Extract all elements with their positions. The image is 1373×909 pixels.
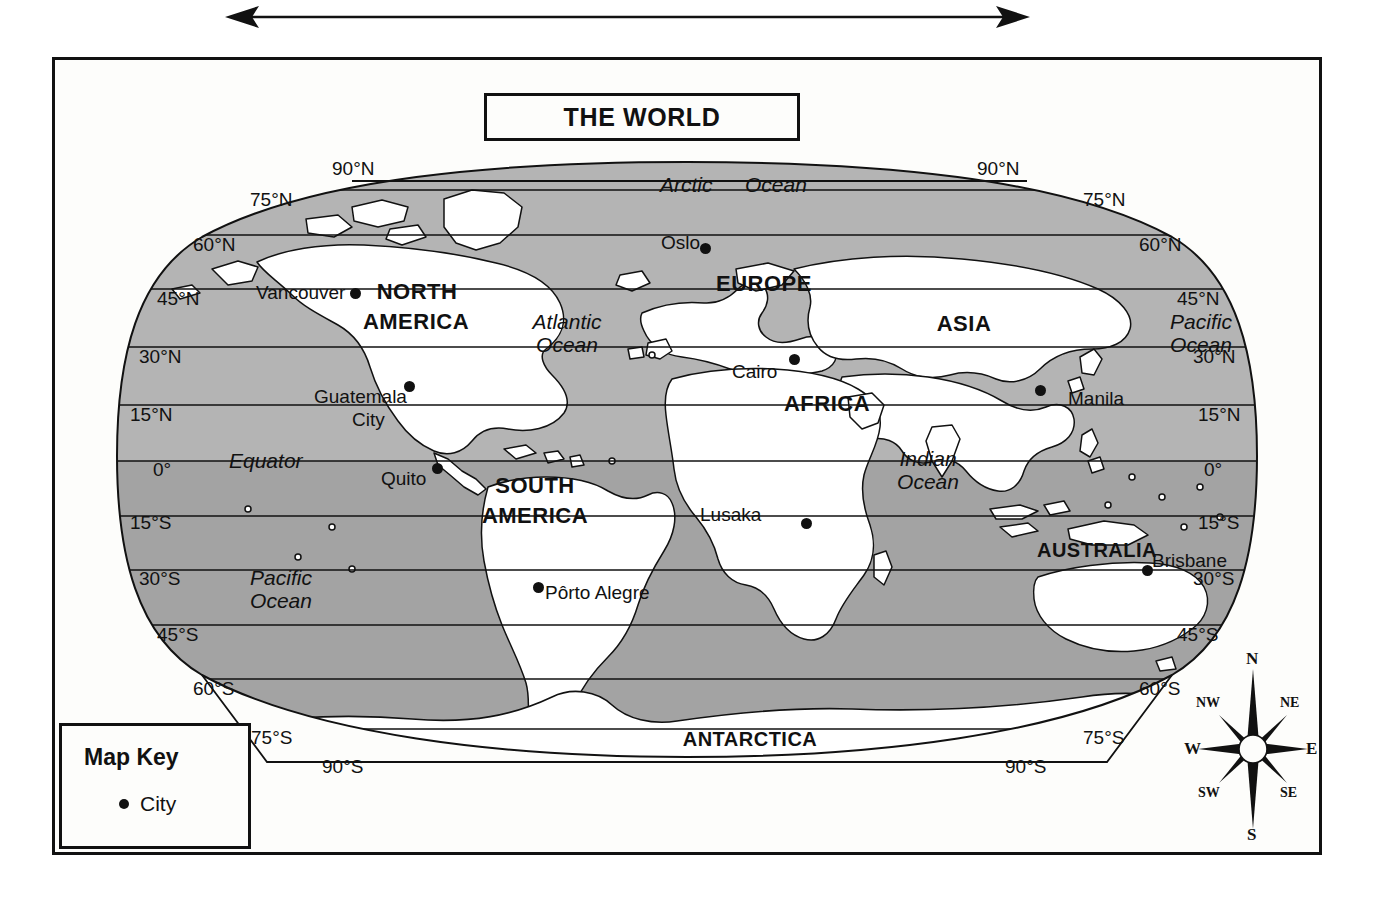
compass-label-se: SE [1280,785,1297,801]
map-key-title: Map Key [84,744,179,771]
compass-label-nw: NW [1196,695,1220,711]
compass-star-icon [1192,651,1314,847]
compass-label-s: S [1247,825,1256,845]
page-title: THE WORLD [564,103,721,132]
map-title-box: THE WORLD [484,93,800,141]
compass-label-w: W [1184,739,1201,759]
map-key-entry-city: City [119,792,176,816]
city-symbol-icon [119,799,129,809]
compass-label-e: E [1306,739,1317,759]
compass-label-sw: SW [1198,785,1220,801]
scale-direction-arrow [225,4,1030,30]
compass-label-ne: NE [1280,695,1299,711]
map-key-box: Map Key City [59,723,251,849]
compass-label-n: N [1246,649,1258,669]
compass-rose: N S W E NW NE SW SE [1192,651,1314,847]
map-key-entry-label: City [140,792,176,816]
